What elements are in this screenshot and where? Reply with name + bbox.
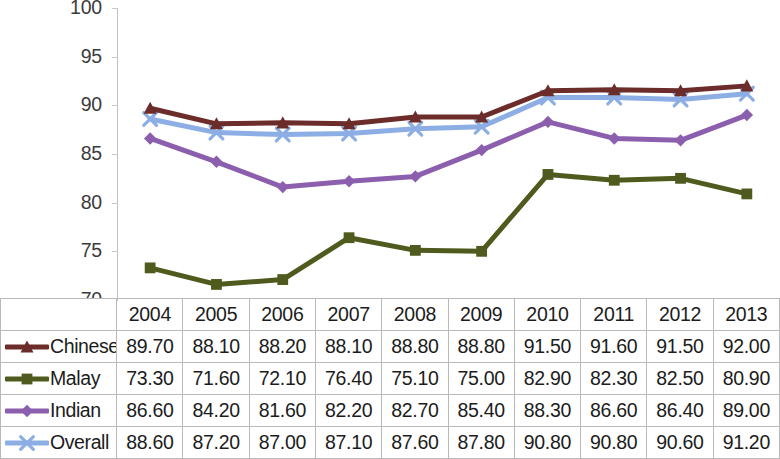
data-point-marker	[608, 132, 620, 144]
table-cell: 90.80	[581, 427, 647, 459]
table-cell: 82.70	[382, 395, 448, 427]
table-year-header: 2009	[448, 299, 514, 331]
data-point-marker	[277, 181, 289, 193]
table-cell: 71.60	[183, 363, 249, 395]
legend-entry-chinese[interactable]: Chinese	[1, 331, 117, 363]
series-chinese	[144, 79, 754, 129]
data-table-container: 2004200520062007200820092010201120122013…	[0, 298, 780, 457]
legend-triangle-icon	[18, 338, 36, 356]
table-cell: 81.60	[249, 395, 315, 427]
table-year-header: 2013	[713, 299, 779, 331]
table-cell: 87.10	[316, 427, 382, 459]
table-cell: 88.10	[183, 331, 249, 363]
legend-entry-overall[interactable]: Overall	[1, 427, 117, 459]
legend-marker-icon	[5, 371, 49, 387]
table-year-header: 2006	[249, 299, 315, 331]
table-cell: 89.70	[117, 331, 183, 363]
table-cell: 90.60	[647, 427, 713, 459]
table-cell: 73.30	[117, 363, 183, 395]
legend-x-icon	[18, 434, 36, 452]
table-cell: 86.60	[117, 395, 183, 427]
table-cell: 75.10	[382, 363, 448, 395]
table-header-row: 2004200520062007200820092010201120122013	[1, 299, 780, 331]
table-year-header: 2011	[581, 299, 647, 331]
y-axis-tick-mark	[112, 203, 118, 204]
data-point-marker	[344, 232, 355, 243]
table-cell: 88.80	[448, 331, 514, 363]
legend-entry-indian[interactable]: Indian	[1, 395, 117, 427]
table-cell: 72.10	[249, 363, 315, 395]
data-point-marker	[144, 132, 156, 144]
legend-label: Chinese	[50, 337, 117, 357]
table-year-header: 2008	[382, 299, 448, 331]
table-cell: 82.90	[514, 363, 580, 395]
table-cell: 82.20	[316, 395, 382, 427]
y-axis-tick-mark	[112, 154, 118, 155]
table-year-header: 2012	[647, 299, 713, 331]
table-cell: 91.50	[514, 331, 580, 363]
table-cell: 86.60	[581, 395, 647, 427]
data-point-marker	[211, 279, 222, 290]
data-point-marker	[476, 246, 487, 257]
data-point-marker	[609, 175, 620, 186]
table-cell: 84.20	[183, 395, 249, 427]
series-layer	[144, 79, 754, 289]
table-row: Indian86.6084.2081.6082.2082.7085.4088.3…	[1, 395, 780, 427]
legend-square-icon	[18, 370, 36, 388]
table-cell: 88.10	[316, 331, 382, 363]
table-cell: 91.20	[713, 427, 779, 459]
series-overall	[144, 87, 754, 141]
table-cell: 76.40	[316, 363, 382, 395]
data-point-marker	[343, 175, 355, 187]
y-axis-tick-mark	[112, 8, 118, 9]
y-axis-tick-mark	[112, 105, 118, 106]
table-cell: 88.80	[382, 331, 448, 363]
data-point-marker	[543, 169, 554, 180]
data-point-marker	[741, 109, 753, 121]
table-cell: 87.00	[249, 427, 315, 459]
table-row: Overall88.6087.2087.0087.1087.6087.8090.…	[1, 427, 780, 459]
table-cell: 88.60	[117, 427, 183, 459]
table-cell: 88.20	[249, 331, 315, 363]
legend-marker-icon	[5, 403, 49, 419]
data-point-marker	[210, 156, 222, 168]
table-cell: 89.00	[713, 395, 779, 427]
series-line-overall	[150, 94, 747, 135]
y-axis-tick-mark	[112, 251, 118, 252]
legend-label: Indian	[50, 401, 101, 421]
data-point-marker	[410, 245, 421, 256]
table-row: Chinese89.7088.1088.2088.1088.8088.8091.…	[1, 331, 780, 363]
table-year-header: 2007	[316, 299, 382, 331]
table-cell: 91.50	[647, 331, 713, 363]
legend-label: Malay	[50, 369, 100, 389]
table-year-header: 2010	[514, 299, 580, 331]
legend-marker-icon	[5, 435, 49, 451]
legend-entry-malay[interactable]: Malay	[1, 363, 117, 395]
series-line-chinese	[150, 86, 747, 124]
plot-svg	[0, 0, 780, 305]
table-row: Malay73.3071.6072.1076.4075.1075.0082.90…	[1, 363, 780, 395]
table-year-header: 2005	[183, 299, 249, 331]
table-cell: 88.30	[514, 395, 580, 427]
data-point-marker	[674, 134, 686, 146]
legend-marker-icon	[5, 339, 49, 355]
y-axis-tick-mark	[112, 57, 118, 58]
data-point-marker	[741, 189, 752, 200]
data-point-marker	[277, 274, 288, 285]
table-cell: 87.80	[448, 427, 514, 459]
table-cell: 90.80	[514, 427, 580, 459]
table-cell: 91.60	[581, 331, 647, 363]
legend-diamond-icon	[18, 402, 36, 420]
table-cell: 85.40	[448, 395, 514, 427]
table-corner-cell	[1, 299, 117, 331]
series-line-malay	[150, 174, 747, 284]
table-cell: 87.60	[382, 427, 448, 459]
table-cell: 86.40	[647, 395, 713, 427]
series-malay	[145, 169, 753, 290]
table-cell: 87.20	[183, 427, 249, 459]
table-cell: 80.90	[713, 363, 779, 395]
legend-label: Overall	[50, 433, 109, 453]
table-cell: 82.30	[581, 363, 647, 395]
table-cell: 92.00	[713, 331, 779, 363]
